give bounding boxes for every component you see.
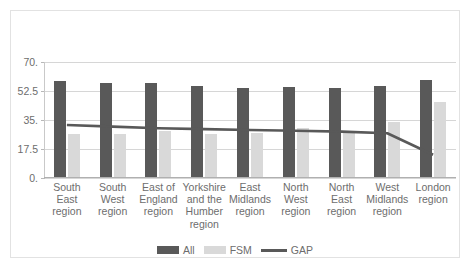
legend-label: GAP bbox=[291, 245, 313, 255]
bar-group bbox=[273, 62, 319, 177]
bar-all bbox=[54, 81, 66, 177]
bar-fsm bbox=[114, 134, 126, 177]
bar-fsm bbox=[159, 131, 171, 177]
bar-fsm bbox=[434, 102, 446, 177]
x-axis-labels: SouthEastregionSouthWestregionEast ofEng… bbox=[44, 181, 456, 230]
bar-group bbox=[319, 62, 365, 177]
bar-group bbox=[364, 62, 410, 177]
bar-fsm bbox=[205, 134, 217, 177]
y-axis-tick-label: 52.5 bbox=[18, 85, 38, 97]
x-axis-category-label: WestMidlandsregion bbox=[364, 181, 410, 230]
bar-all bbox=[283, 87, 295, 177]
chart-container: 0.17.535.52.570. SouthEastregionSouthWes… bbox=[0, 0, 470, 268]
bar-fsm bbox=[297, 128, 309, 177]
bar-all bbox=[420, 80, 432, 177]
chart-legend: AllFSMGAP bbox=[0, 245, 470, 255]
y-axis-labels: 0.17.535.52.570. bbox=[0, 62, 40, 178]
bar-all bbox=[100, 83, 112, 177]
bar-group bbox=[136, 62, 182, 177]
legend-label: All bbox=[183, 245, 195, 255]
bar-group bbox=[227, 62, 273, 177]
legend-item-gap[interactable]: GAP bbox=[261, 245, 313, 255]
bar-all bbox=[237, 88, 249, 177]
bar-group bbox=[44, 62, 90, 177]
bar-all bbox=[374, 86, 386, 177]
bar-group bbox=[90, 62, 136, 177]
legend-item-all[interactable]: All bbox=[157, 245, 195, 255]
legend-bar-swatch-icon bbox=[204, 246, 226, 254]
bar-all bbox=[191, 86, 203, 177]
x-axis-category-label: Londonregion bbox=[410, 181, 456, 230]
x-axis-line bbox=[44, 177, 456, 178]
bar-groups bbox=[44, 62, 456, 177]
bar-all bbox=[329, 88, 341, 177]
bar-group bbox=[410, 62, 456, 177]
x-axis-category-label: East ofEnglandregion bbox=[136, 181, 182, 230]
x-axis-category-label: SouthWestregion bbox=[90, 181, 136, 230]
y-axis-tick bbox=[41, 178, 45, 179]
bar-group bbox=[181, 62, 227, 177]
bar-fsm bbox=[343, 131, 355, 177]
y-axis-tick-label: 0. bbox=[29, 172, 38, 184]
legend-line-swatch-icon bbox=[261, 249, 287, 252]
y-axis-tick-label: 70. bbox=[23, 56, 38, 68]
y-axis-tick-label: 35. bbox=[23, 114, 38, 126]
legend-item-fsm[interactable]: FSM bbox=[204, 245, 252, 255]
legend-label: FSM bbox=[230, 245, 252, 255]
bar-fsm bbox=[251, 133, 263, 177]
gridline bbox=[44, 178, 456, 179]
legend-bar-swatch-icon bbox=[157, 246, 179, 254]
x-axis-category-label: Yorkshireand theHumberregion bbox=[181, 181, 227, 230]
x-axis-category-label: NorthEastregion bbox=[319, 181, 365, 230]
x-axis-category-label: SouthEastregion bbox=[44, 181, 90, 230]
bar-all bbox=[145, 83, 157, 177]
bar-fsm bbox=[388, 122, 400, 177]
x-axis-category-label: EastMidlandsregion bbox=[227, 181, 273, 230]
bar-fsm bbox=[68, 134, 80, 177]
x-axis-category-label: NorthWestregion bbox=[273, 181, 319, 230]
plot-area bbox=[44, 62, 456, 178]
y-axis-tick-label: 17.5 bbox=[18, 143, 38, 155]
